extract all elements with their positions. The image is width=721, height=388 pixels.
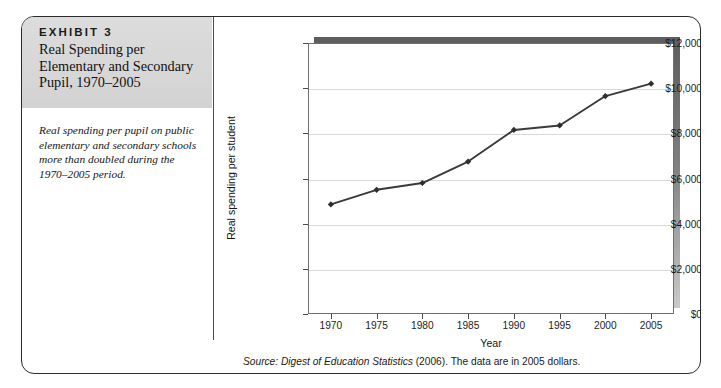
x-tick-label: 1980 <box>411 320 434 331</box>
source-suffix: (2006). The data are in 2005 dollars. <box>413 356 580 367</box>
source-prefix: Source: <box>243 356 281 367</box>
x-tick-mark <box>605 314 606 319</box>
x-tick-mark <box>651 314 652 319</box>
x-tick-label: 1975 <box>365 320 388 331</box>
x-tick-mark <box>331 314 332 319</box>
exhibit-header-block: EXHIBIT 3 Real Spending per Elementary a… <box>22 17 212 108</box>
chart-region: $0$2,000$4,000$6,000$8,000$10,000$12,000… <box>213 17 701 374</box>
x-tick-label: 1990 <box>503 320 526 331</box>
x-tick-label: 1995 <box>548 320 571 331</box>
x-tick-label: 1970 <box>320 320 343 331</box>
y-axis-title: Real spending per student <box>225 116 237 240</box>
x-tick-mark <box>560 314 561 319</box>
x-tick-mark <box>514 314 515 319</box>
data-point-marker <box>374 187 380 193</box>
y-tick-mark <box>303 314 308 315</box>
x-tick-label: 2005 <box>640 320 663 331</box>
exhibit-frame: EXHIBIT 3 Real Spending per Elementary a… <box>21 16 701 374</box>
data-point-marker <box>328 201 334 207</box>
exhibit-label: EXHIBIT 3 <box>39 26 212 38</box>
x-tick-mark <box>468 314 469 319</box>
x-tick-mark <box>422 314 423 319</box>
x-tick-mark <box>377 314 378 319</box>
x-axis-title: Year <box>480 337 501 349</box>
exhibit-caption: Real spending per pupil on public elemen… <box>39 123 202 181</box>
x-tick-label: 1985 <box>457 320 480 331</box>
source-publication: Digest of Education Statistics <box>281 356 413 367</box>
source-note: Source: Digest of Education Statistics (… <box>243 356 580 367</box>
data-point-marker <box>648 81 654 87</box>
line-series <box>308 43 674 314</box>
x-tick-label: 2000 <box>594 320 617 331</box>
exhibit-title: Real Spending per Elementary and Seconda… <box>39 41 199 91</box>
data-point-marker <box>419 180 425 186</box>
